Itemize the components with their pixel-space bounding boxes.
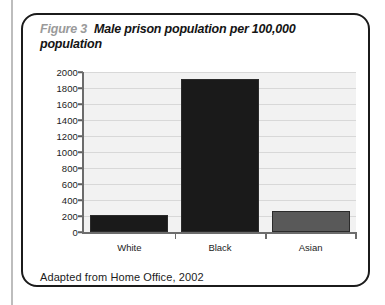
y-axis: 0200400600800100012001400160018002000 bbox=[30, 72, 78, 232]
bar-chart: 0200400600800100012001400160018002000 Wh… bbox=[30, 65, 364, 265]
plot-area: WhiteBlackAsian bbox=[82, 72, 356, 234]
x-axis-tick-mark bbox=[265, 232, 267, 239]
bar-black bbox=[181, 79, 259, 232]
source-note: Adapted from Home Office, 2002 bbox=[40, 271, 204, 283]
x-axis-label-black: Black bbox=[208, 242, 231, 253]
x-axis-label-white: White bbox=[117, 242, 141, 253]
y-axis-tick-label: 1000 bbox=[38, 147, 78, 158]
gridline bbox=[84, 72, 356, 73]
bar-white bbox=[90, 215, 168, 232]
y-axis-tick-label: 400 bbox=[38, 195, 78, 206]
x-axis-tick-mark bbox=[175, 232, 177, 239]
y-axis-tick-label: 200 bbox=[38, 211, 78, 222]
bar-asian bbox=[272, 211, 350, 232]
y-axis-tick-label: 1600 bbox=[38, 99, 78, 110]
y-axis-tick-label: 600 bbox=[38, 179, 78, 190]
x-axis-tick-mark bbox=[355, 232, 357, 239]
figure-number-label: Figure 3 bbox=[40, 22, 87, 36]
x-axis-label-asian: Asian bbox=[299, 242, 323, 253]
y-axis-tick-label: 800 bbox=[38, 163, 78, 174]
y-axis-tick-label: 1400 bbox=[38, 115, 78, 126]
figure-caption: Figure 3Male prison population per 100,0… bbox=[40, 22, 352, 52]
page-margin-rule bbox=[11, 0, 13, 305]
figure-box: Figure 3Male prison population per 100,0… bbox=[21, 13, 370, 287]
y-axis-tick-label: 1200 bbox=[38, 131, 78, 142]
y-axis-tick-label: 2000 bbox=[38, 67, 78, 78]
y-axis-tick-label: 1800 bbox=[38, 83, 78, 94]
y-axis-tick-label: 0 bbox=[38, 227, 78, 238]
